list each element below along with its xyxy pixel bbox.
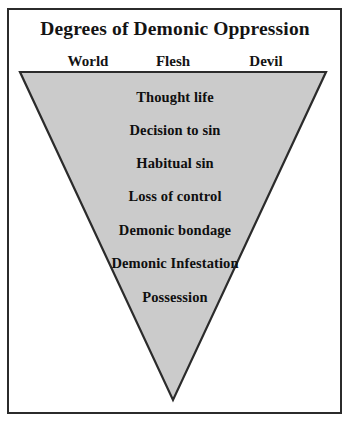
level-item-5: Demonic bondage [119,222,231,239]
level-label-stack: Thought life Decision to sin Habitual si… [0,0,350,422]
level-item-2: Decision to sin [130,122,221,139]
level-item-3: Habitual sin [136,155,213,172]
level-item-7: Possession [142,289,207,306]
level-item-6: Demonic Infestation [111,255,238,272]
level-item-4: Loss of control [128,188,221,205]
diagram-page: Degrees of Demonic Oppression World Fles… [0,0,350,422]
level-item-1: Thought life [136,89,213,106]
